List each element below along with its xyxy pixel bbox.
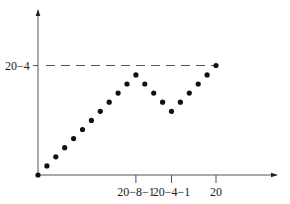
x-ticks: 20−8−120−4−120 — [117, 175, 222, 199]
x-tick-label: 20−4−1 — [153, 185, 191, 199]
data-point — [196, 81, 201, 86]
x-tick-label: 20−8−1 — [117, 185, 155, 199]
data-point — [116, 91, 121, 96]
y-tick-label: 20−4 — [5, 59, 30, 73]
data-point — [89, 118, 94, 123]
data-point — [133, 72, 138, 77]
data-point — [107, 100, 112, 105]
data-point — [98, 109, 103, 114]
figure: 20−4 20−8−120−4−120 — [0, 0, 290, 204]
data-point — [160, 100, 165, 105]
data-point — [178, 100, 183, 105]
data-point — [142, 81, 147, 86]
data-point — [71, 136, 76, 141]
data-point — [169, 109, 174, 114]
data-point — [53, 154, 58, 159]
data-point — [62, 145, 67, 150]
data-point — [44, 163, 49, 168]
data-point — [213, 63, 218, 68]
data-point — [205, 72, 210, 77]
data-point — [124, 81, 129, 86]
data-point — [80, 127, 85, 132]
x-tick-label: 20 — [210, 185, 222, 199]
data-points — [35, 63, 218, 178]
data-point — [187, 91, 192, 96]
data-point — [151, 91, 156, 96]
data-point — [35, 172, 40, 177]
